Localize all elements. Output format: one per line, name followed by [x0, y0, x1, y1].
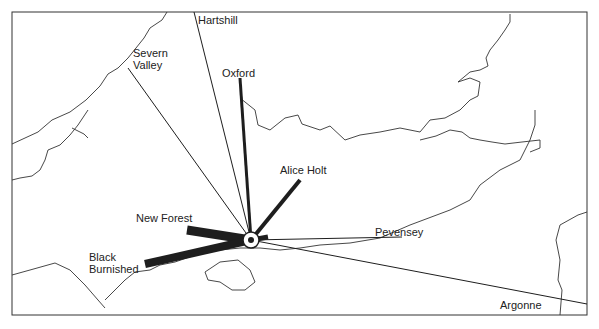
source-lines	[128, 12, 587, 304]
label-oxford: Oxford	[222, 67, 255, 79]
line-alice-holt	[251, 180, 300, 240]
label-black-burnished: Black Burnished	[89, 251, 149, 275]
label-argonne: Argonne	[500, 299, 542, 311]
label-pevensey: Pevensey	[375, 226, 423, 238]
label-new-forest: New Forest	[136, 212, 192, 224]
line-argonne	[251, 240, 587, 304]
site-hub-dot-icon	[248, 237, 254, 243]
label-alice-holt: Alice Holt	[280, 164, 326, 176]
label-hartshill: Hartshill	[198, 14, 238, 26]
label-severn-valley: Severn Valley	[133, 47, 173, 71]
distribution-map: Hartshill Severn Valley Oxford Alice Hol…	[0, 0, 599, 329]
